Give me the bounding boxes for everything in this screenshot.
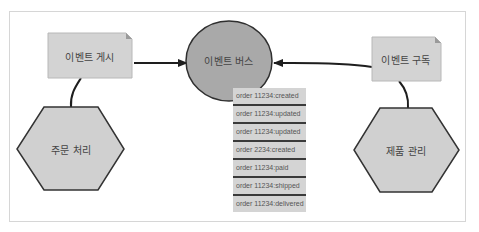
publish-label: 이벤트 게시: [65, 49, 114, 64]
event-log-item: order 11234:updated: [233, 124, 306, 142]
product-service-label: 제품 관리: [386, 143, 426, 158]
event-log-item: order 11234:created: [233, 88, 306, 106]
subscribe-label: 이벤트 구독: [381, 52, 430, 67]
event-log-item: order 2234:created: [233, 142, 306, 160]
event-bus-label: 이벤트 버스: [204, 53, 253, 68]
arrow-subscribe-to-bus: [274, 63, 372, 67]
event-log-list: order 11234:created order 11234:updated …: [233, 88, 306, 212]
event-log-item: order 11234:updated: [233, 106, 306, 124]
event-log-item: order 11234:shipped: [233, 178, 306, 196]
connector-order-to-publish: [71, 78, 81, 107]
connector-product-to-subscribe: [399, 81, 408, 108]
order-service-label: 주문 처리: [51, 142, 91, 157]
event-log-item: order 11234:paid: [233, 160, 306, 178]
event-log-item: order 11234:delivered: [233, 196, 306, 212]
